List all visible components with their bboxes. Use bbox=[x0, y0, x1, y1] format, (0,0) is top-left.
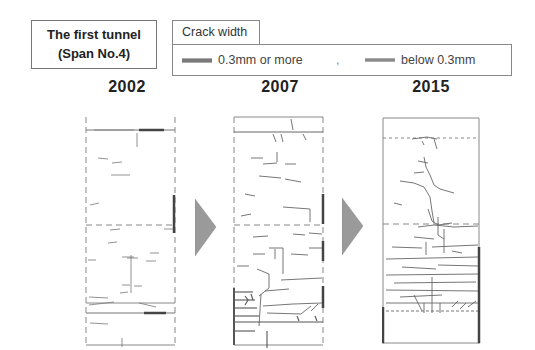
legend-label-small: below 0.3mm bbox=[401, 53, 475, 67]
legend-separator: , bbox=[336, 45, 339, 75]
legend-item-small: below 0.3mm bbox=[365, 45, 475, 75]
crack-map-2007 bbox=[233, 116, 327, 348]
arrow-2002-to-2007 bbox=[195, 199, 217, 261]
year-label-2015: 2015 bbox=[391, 78, 471, 96]
crack-map-2002 bbox=[84, 115, 184, 347]
arrow-2007-to-2015 bbox=[342, 198, 364, 260]
year-label-2007: 2007 bbox=[240, 78, 320, 96]
thick-line-swatch-icon bbox=[182, 58, 212, 63]
tunnel-title: The first tunnel bbox=[32, 25, 156, 44]
legend-label-large: 0.3mm or more bbox=[218, 53, 303, 67]
legend-title: Crack width bbox=[172, 20, 260, 44]
triangle-right-icon bbox=[195, 199, 217, 257]
crack-drawing-2002 bbox=[84, 115, 184, 347]
crack-drawing-2007 bbox=[233, 116, 327, 348]
tunnel-title-box: The first tunnel (Span No.4) bbox=[31, 20, 157, 69]
legend-item-large: 0.3mm or more bbox=[182, 45, 303, 75]
thin-line-swatch-icon bbox=[365, 58, 395, 62]
crack-drawing-2015 bbox=[382, 117, 482, 349]
crack-map-2015 bbox=[382, 117, 482, 349]
span-number: (Span No.4) bbox=[32, 44, 156, 63]
crack-width-legend: 0.3mm or more , below 0.3mm bbox=[172, 44, 512, 76]
year-label-2002: 2002 bbox=[87, 78, 167, 96]
triangle-right-icon bbox=[342, 198, 364, 256]
